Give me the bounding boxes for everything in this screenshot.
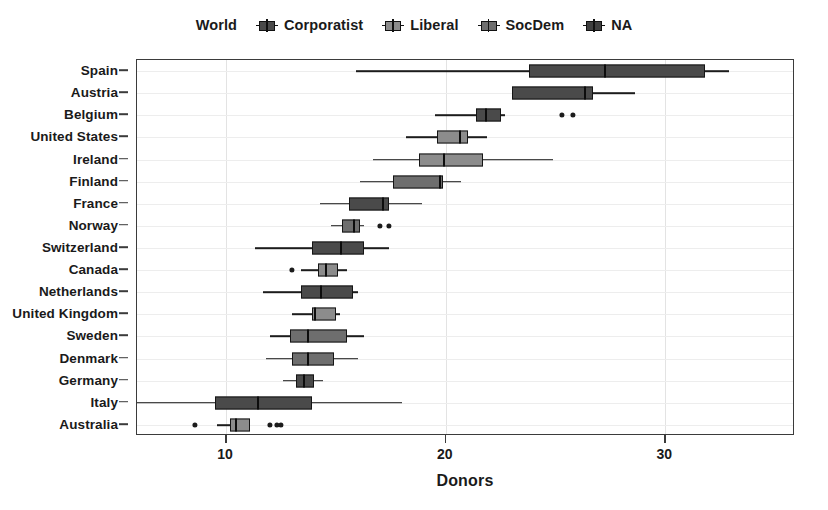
median-line xyxy=(320,286,322,299)
y-axis-tick xyxy=(119,224,128,226)
box[interactable] xyxy=(290,330,347,343)
y-axis-tick xyxy=(119,335,128,337)
legend-item-world[interactable]: World xyxy=(196,18,237,33)
gridline-horizontal xyxy=(137,314,793,315)
y-axis-tick xyxy=(119,158,128,160)
whisker-high xyxy=(312,402,402,404)
median-line xyxy=(314,308,316,321)
outlier-point[interactable] xyxy=(289,268,294,273)
box[interactable] xyxy=(230,418,250,431)
whisker-low xyxy=(331,225,342,227)
box[interactable] xyxy=(318,264,338,277)
box[interactable] xyxy=(529,65,705,78)
outlier-point[interactable] xyxy=(193,422,198,427)
x-axis-tick-label: 30 xyxy=(657,446,673,462)
y-axis-tick xyxy=(119,113,128,115)
gridline-horizontal xyxy=(137,93,793,94)
gridline-horizontal xyxy=(137,248,793,249)
whisker-low xyxy=(292,314,312,316)
legend-item-socdem[interactable]: SocDem xyxy=(479,18,565,33)
box[interactable] xyxy=(437,131,468,144)
box[interactable] xyxy=(312,242,365,255)
legend-item-na[interactable]: NA xyxy=(584,18,632,33)
whisker-high xyxy=(314,380,323,382)
y-axis-label-italy: Italy xyxy=(90,394,118,409)
y-axis-label-sweden: Sweden xyxy=(66,328,118,343)
whisker-low xyxy=(360,181,393,183)
box[interactable] xyxy=(419,153,483,166)
median-line xyxy=(235,418,237,431)
x-axis-tick xyxy=(225,435,227,443)
whisker-high xyxy=(336,314,340,316)
median-line xyxy=(439,175,441,188)
box[interactable] xyxy=(296,374,314,387)
legend-label: SocDem xyxy=(506,18,565,33)
outlier-point[interactable] xyxy=(386,223,391,228)
box[interactable] xyxy=(301,286,354,299)
y-axis-label-united-states: United States xyxy=(30,129,118,144)
boxplot-glyph-icon xyxy=(584,18,604,33)
whisker-low xyxy=(320,203,349,205)
whisker-high xyxy=(501,114,505,116)
plot-panel xyxy=(136,59,794,435)
y-axis-tick xyxy=(119,401,128,403)
median-line xyxy=(307,330,309,343)
median-line xyxy=(485,109,487,122)
box[interactable] xyxy=(512,87,593,100)
whisker-low xyxy=(356,70,530,72)
x-axis-title: Donors xyxy=(136,472,794,490)
gridline-horizontal xyxy=(137,359,793,360)
x-axis-tick-label: 10 xyxy=(217,446,233,462)
outlier-point[interactable] xyxy=(377,223,382,228)
median-line xyxy=(307,352,309,365)
y-axis-tick xyxy=(119,136,128,138)
box[interactable] xyxy=(393,175,444,188)
legend-item-corporatist[interactable]: Corporatist xyxy=(257,18,363,33)
outlier-point[interactable] xyxy=(278,422,283,427)
y-axis-label-austria: Austria xyxy=(71,85,118,100)
whisker-low xyxy=(283,380,296,382)
median-line xyxy=(257,396,259,409)
y-axis-label-france: France xyxy=(73,195,118,210)
gridline-horizontal xyxy=(137,381,793,382)
box[interactable] xyxy=(342,219,360,232)
whisker-low xyxy=(301,269,319,271)
legend-item-liberal[interactable]: Liberal xyxy=(383,18,458,33)
gridline-horizontal xyxy=(137,182,793,183)
x-axis-tick xyxy=(664,435,666,443)
x-axis-ticks: 102030 xyxy=(136,435,794,436)
whisker-high xyxy=(443,181,461,183)
whisker-high xyxy=(705,70,729,72)
whisker-high xyxy=(353,291,357,293)
gridline-horizontal xyxy=(137,292,793,293)
y-axis-tick xyxy=(119,91,128,93)
y-axis-label-switzerland: Switzerland xyxy=(42,240,118,255)
whisker-low xyxy=(435,114,477,116)
legend-label: Corporatist xyxy=(284,18,363,33)
y-axis-tick xyxy=(119,379,128,381)
x-axis-tick xyxy=(445,435,447,443)
median-line xyxy=(459,131,461,144)
outlier-point[interactable] xyxy=(267,422,272,427)
x-axis-tick-label: 20 xyxy=(437,446,453,462)
legend-label: NA xyxy=(611,18,632,33)
y-axis-tick xyxy=(119,69,128,71)
whisker-low xyxy=(373,159,419,161)
y-axis-label-spain: Spain xyxy=(81,63,118,78)
y-axis-labels: SpainAustriaBelgiumUnited StatesIrelandF… xyxy=(0,59,128,435)
boxplot-glyph-icon xyxy=(479,18,499,33)
median-line xyxy=(353,219,355,232)
whisker-low xyxy=(406,137,437,139)
outlier-point[interactable] xyxy=(560,113,565,118)
box[interactable] xyxy=(215,396,312,409)
box[interactable] xyxy=(292,352,334,365)
y-axis-tick xyxy=(119,357,128,359)
whisker-high xyxy=(360,225,364,227)
median-line xyxy=(325,264,327,277)
outlier-point[interactable] xyxy=(571,113,576,118)
box[interactable] xyxy=(476,109,500,122)
whisker-low xyxy=(217,424,230,426)
chart-root: WorldCorporatistLiberalSocDemNA SpainAus… xyxy=(0,0,828,510)
y-axis-tick xyxy=(119,180,128,182)
whisker-high xyxy=(468,137,488,139)
